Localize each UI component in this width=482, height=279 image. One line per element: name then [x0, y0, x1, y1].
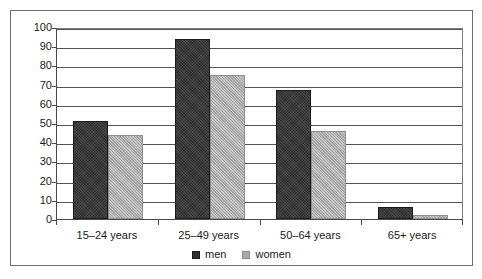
x-axis-tick-mark: [462, 220, 463, 225]
x-axis-tick-mark: [56, 220, 57, 225]
chart-frame: 1009080706050403020100 15–24 years25–49 …: [10, 10, 473, 266]
legend-label: women: [255, 249, 290, 260]
bar-women[interactable]: [413, 215, 448, 219]
legend-swatch-men-icon: [192, 251, 200, 259]
bar-group: [73, 29, 143, 219]
x-axis-tick-mark: [260, 220, 261, 225]
x-axis-tick-label: 25–49 years: [158, 229, 260, 242]
bar-men[interactable]: [276, 90, 311, 219]
bar-group: [276, 29, 346, 219]
bar-group: [378, 29, 448, 219]
x-axis-tick-label: 65+ years: [361, 229, 463, 242]
bar-women[interactable]: [311, 131, 346, 219]
legend-swatch-women-icon: [242, 251, 250, 259]
chart-legend: menwomen: [11, 249, 472, 260]
x-axis-tick-marks: [56, 220, 463, 226]
legend-entry-men[interactable]: men: [192, 249, 226, 260]
bar-men[interactable]: [378, 207, 413, 219]
bar-men[interactable]: [73, 121, 108, 219]
x-axis-tick-label: 15–24 years: [56, 229, 158, 242]
legend-label: men: [205, 249, 226, 260]
bar-women[interactable]: [210, 75, 245, 219]
bar-women[interactable]: [108, 135, 143, 219]
x-axis-tick-mark: [158, 220, 159, 225]
x-axis-tick-labels: 15–24 years25–49 years50–64 years65+ yea…: [56, 229, 463, 245]
bar-men[interactable]: [175, 39, 210, 219]
x-axis-tick-label: 50–64 years: [260, 229, 362, 242]
x-axis-tick-mark: [361, 220, 362, 225]
y-axis-tick-marks: [11, 28, 57, 220]
bar-group: [175, 29, 245, 219]
legend-entry-women[interactable]: women: [242, 249, 290, 260]
plot-area: [56, 28, 463, 220]
